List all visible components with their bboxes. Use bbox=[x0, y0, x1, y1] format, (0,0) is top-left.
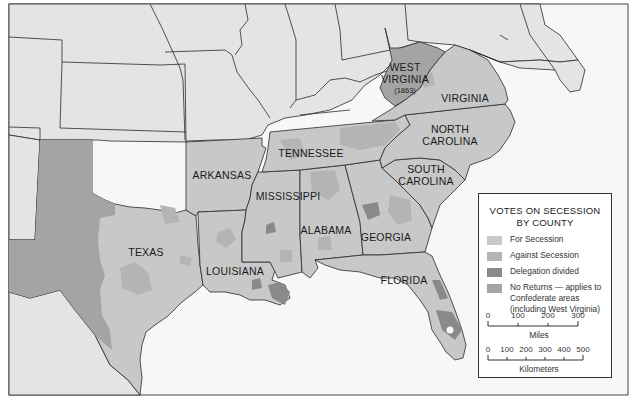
legend-title: VOTES ON SECESSION BY COUNTY bbox=[479, 205, 611, 229]
label-south-carolina: SOUTH bbox=[407, 163, 445, 175]
svg-text:100: 100 bbox=[500, 345, 514, 354]
svg-text:200: 200 bbox=[541, 311, 555, 320]
svg-text:300: 300 bbox=[571, 311, 585, 320]
legend-item-for-secession: For Secession bbox=[487, 234, 611, 245]
swatch-delegation-divided bbox=[487, 268, 502, 277]
legend-items: For Secession Against Secession Delegati… bbox=[479, 234, 611, 315]
svg-text:CAROLINA: CAROLINA bbox=[398, 175, 453, 187]
legend-item-delegation-divided: Delegation divided bbox=[487, 266, 611, 277]
label-texas: TEXAS bbox=[128, 246, 163, 258]
label-north-carolina: NORTH bbox=[431, 123, 469, 135]
svg-text:300: 300 bbox=[538, 345, 552, 354]
label-tennessee: TENNESSEE bbox=[278, 147, 343, 159]
svg-text:0: 0 bbox=[486, 345, 491, 354]
label-florida: FLORIDA bbox=[381, 274, 428, 286]
swatch-against-secession bbox=[487, 252, 502, 261]
scale-miles: 0 100 200 300 Miles bbox=[479, 310, 611, 340]
legend-item-against-secession: Against Secession bbox=[487, 250, 611, 261]
svg-text:400: 400 bbox=[557, 345, 571, 354]
label-virginia: VIRGINIA bbox=[441, 92, 489, 104]
swatch-no-returns bbox=[487, 284, 502, 293]
svg-text:500: 500 bbox=[576, 345, 590, 354]
label-mississippi: MISSISSIPPI bbox=[256, 190, 321, 202]
svg-text:100: 100 bbox=[511, 311, 525, 320]
label-alabama: ALABAMA bbox=[300, 224, 351, 236]
scale-km-unit: Kilometers bbox=[467, 364, 611, 374]
swatch-for-secession bbox=[487, 236, 502, 245]
svg-text:CAROLINA: CAROLINA bbox=[422, 135, 477, 147]
label-georgia: GEORGIA bbox=[361, 231, 411, 243]
svg-text:VIRGINIA: VIRGINIA bbox=[381, 73, 429, 85]
svg-text:(1863): (1863) bbox=[394, 86, 416, 95]
scale-miles-unit: Miles bbox=[467, 330, 611, 340]
label-west-virginia: WEST bbox=[389, 61, 421, 73]
legend-box: VOTES ON SECESSION BY COUNTY For Secessi… bbox=[478, 193, 612, 378]
scale-km: 0 100 200 300 400 500 Kilometers bbox=[479, 344, 611, 374]
svg-text:200: 200 bbox=[519, 345, 533, 354]
label-arkansas: ARKANSAS bbox=[193, 169, 252, 181]
svg-text:0: 0 bbox=[486, 311, 491, 320]
label-louisiana: LOUISIANA bbox=[206, 265, 264, 277]
